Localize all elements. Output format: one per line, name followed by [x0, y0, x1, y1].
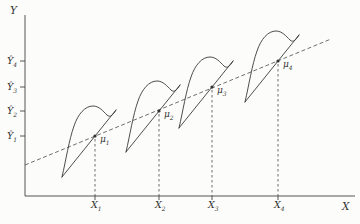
regression-diagram: Y X Ŷ4 Ŷ3 Ŷ2 Ŷ1 X1 X2 X3 X4 μ1 μ2 μ3 μ4: [0, 0, 360, 224]
mean-dot-3: [210, 85, 213, 88]
mean-dot-4: [276, 59, 279, 62]
y-axis-label: Y: [10, 4, 18, 16]
regression-figure: Y X Ŷ4 Ŷ3 Ŷ2 Ŷ1 X1 X2 X3 X4 μ1 μ2 μ3 μ4: [0, 0, 360, 224]
canvas-background: [0, 0, 360, 224]
x-axis-label: X: [341, 200, 350, 212]
mean-dot-2: [157, 109, 160, 112]
mean-dot-1: [93, 134, 96, 137]
